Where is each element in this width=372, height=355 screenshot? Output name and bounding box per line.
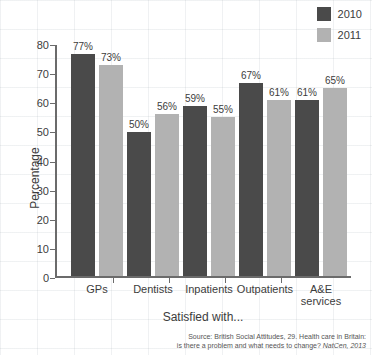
y-tick-label: 50 <box>37 126 49 138</box>
source-publisher: NatCen, 2013 <box>323 342 366 349</box>
bars-layer: 77%73%GPs50%56%Dentists59%55%Inpatients6… <box>57 45 351 276</box>
y-tick-label: 0 <box>43 272 49 284</box>
x-category-label: A&Eservices <box>287 283 355 307</box>
bar-2010[interactable]: 77% <box>71 54 95 276</box>
bar-value-label: 65% <box>325 75 345 86</box>
bar-value-label: 55% <box>213 104 233 115</box>
bar-value-label: 50% <box>129 119 149 130</box>
bar-value-label: 77% <box>73 41 93 52</box>
legend-item-2011[interactable]: 2011 <box>317 28 362 42</box>
y-tick <box>50 74 55 75</box>
source-line-1: Source: British Social Attitudes, 29. He… <box>116 332 366 341</box>
y-tick <box>50 103 55 104</box>
x-axis-line <box>55 276 351 278</box>
source-line-2: is there a problem and what needs to cha… <box>116 341 366 350</box>
y-tick-label: 80 <box>37 39 49 51</box>
chart-screenshot: 2010 2011 Percentage 01020304050607080 7… <box>0 0 372 355</box>
bar-value-label: 59% <box>185 93 205 104</box>
y-tick-label: 60 <box>37 97 49 109</box>
source-citation: Source: British Social Attitudes, 29. He… <box>116 332 366 350</box>
legend-item-2010[interactable]: 2010 <box>317 7 362 21</box>
y-tick-label: 70 <box>37 68 49 80</box>
y-tick <box>50 191 55 192</box>
y-tick <box>50 220 55 221</box>
y-tick <box>50 132 55 133</box>
bar-value-label: 61% <box>269 87 289 98</box>
y-tick <box>50 249 55 250</box>
y-tick <box>50 278 55 279</box>
legend-label-2010: 2010 <box>338 9 362 20</box>
legend-swatch-2010 <box>317 7 331 21</box>
y-tick <box>50 162 55 163</box>
bar-value-label: 73% <box>101 52 121 63</box>
bar-2011[interactable]: 65% <box>323 88 347 276</box>
legend-swatch-2011 <box>317 28 331 42</box>
x-axis-title: Satisfied with... <box>55 310 351 324</box>
plot-area: 01020304050607080 77%73%GPs50%56%Dentist… <box>55 45 351 278</box>
chart-legend: 2010 2011 <box>317 7 362 42</box>
bar-2010[interactable]: 61% <box>295 100 319 276</box>
y-tick-label: 30 <box>37 185 49 197</box>
bar-group: 61%65%A&Eservices <box>287 45 355 276</box>
bar-2010[interactable]: 59% <box>183 106 207 276</box>
bar-value-label: 67% <box>241 70 261 81</box>
source-line-2-text: is there a problem and what needs to cha… <box>177 342 323 349</box>
y-tick-label: 10 <box>37 243 49 255</box>
bar-2010[interactable]: 50% <box>127 132 151 276</box>
bar-value-label: 56% <box>157 101 177 112</box>
y-tick-label: 40 <box>37 156 49 168</box>
y-tick <box>50 45 55 46</box>
y-tick-label: 20 <box>37 214 49 226</box>
bar-2010[interactable]: 67% <box>239 83 263 276</box>
legend-label-2011: 2011 <box>338 30 362 41</box>
bar-value-label: 61% <box>297 87 317 98</box>
